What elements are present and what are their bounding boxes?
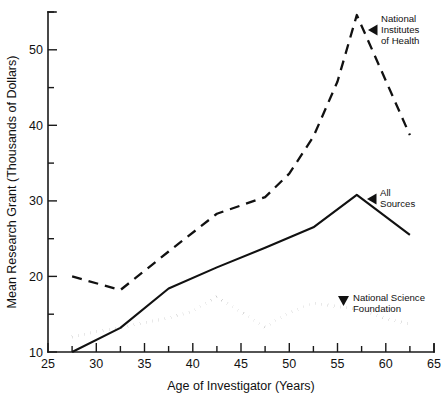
x-tick-label: 65 bbox=[427, 357, 441, 371]
nsf-annotation-line: National Science bbox=[353, 292, 425, 303]
down-triangle-icon bbox=[338, 296, 349, 306]
x-axis-title: Age of Investigator (Years) bbox=[167, 379, 315, 393]
research-grant-line-chart: 10 20 30 40 50 25 bbox=[0, 0, 446, 396]
x-tick-label: 55 bbox=[331, 357, 345, 371]
x-tick-label: 30 bbox=[89, 357, 103, 371]
all-sources-annotation: All Sources bbox=[367, 187, 415, 209]
x-axis-ticks bbox=[48, 343, 434, 352]
x-tick-label: 45 bbox=[234, 357, 248, 371]
all-sources-annotation-line: Sources bbox=[380, 198, 415, 209]
nih-annotation-line: National bbox=[381, 13, 416, 24]
y-tick-label: 20 bbox=[29, 270, 43, 284]
nsf-annotation: National Science Foundation bbox=[338, 292, 425, 314]
left-triangle-icon bbox=[368, 25, 378, 36]
nih-annotation-line: of Health bbox=[381, 35, 419, 46]
nih-annotation-line: Institutes bbox=[381, 24, 420, 35]
x-tick-label: 50 bbox=[282, 357, 296, 371]
y-tick-label: 40 bbox=[29, 119, 43, 133]
x-tick-label: 35 bbox=[138, 357, 152, 371]
y-tick-label: 50 bbox=[29, 43, 43, 57]
y-axis-ticks bbox=[48, 12, 57, 352]
nih-annotation: National Institutes of Health bbox=[368, 13, 420, 46]
x-tick-label: 60 bbox=[379, 357, 393, 371]
chart-canvas: 10 20 30 40 50 25 bbox=[0, 0, 446, 396]
all-sources-annotation-line: All bbox=[380, 187, 391, 198]
x-axis-tick-labels: 25 30 35 40 45 50 55 60 65 bbox=[41, 357, 441, 371]
series-line-all-sources bbox=[72, 195, 410, 352]
x-tick-label: 40 bbox=[186, 357, 200, 371]
y-axis-tick-labels: 10 20 30 40 50 bbox=[29, 43, 43, 359]
x-tick-label: 25 bbox=[41, 357, 55, 371]
nsf-annotation-line: Foundation bbox=[353, 303, 401, 314]
y-tick-label: 30 bbox=[29, 194, 43, 208]
series-line-national-institutes-of-health bbox=[72, 15, 410, 290]
y-axis-title: Mean Research Grant (Thousands of Dollar… bbox=[5, 56, 19, 309]
